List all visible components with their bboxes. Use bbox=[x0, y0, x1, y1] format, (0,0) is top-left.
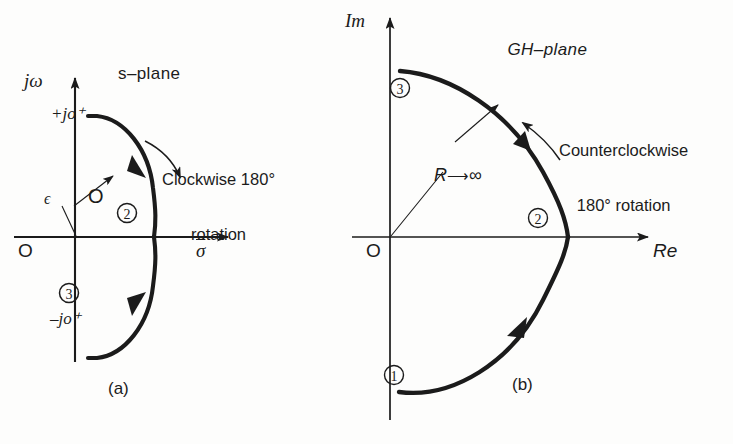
panel-b-direction-arrow-lower bbox=[507, 317, 527, 338]
panel-b-plane-label: GH–plane bbox=[487, 21, 587, 78]
panel-a-epsilon-target-label: O bbox=[88, 185, 104, 207]
panel-b-origin-label: O bbox=[366, 240, 381, 261]
panel-b-marker-1: 1 bbox=[385, 366, 404, 385]
panel-b-radius-value: ∞ bbox=[469, 165, 482, 185]
panel-a-direction-arrow-lower bbox=[127, 292, 146, 316]
panel-a-marker-2: 2 bbox=[118, 204, 137, 223]
svg-text:2: 2 bbox=[124, 207, 131, 222]
panel-b-contour bbox=[399, 71, 568, 393]
panel-a-rotation-note-line2: rotation bbox=[162, 225, 275, 243]
panel-b-rotation-note-line1: Counterclockwise bbox=[559, 141, 688, 159]
panel-a-contour-lower bbox=[88, 237, 155, 358]
panel-b-marker-2: 2 bbox=[529, 209, 548, 228]
panel-a-rotation-note: Clockwise 180° rotation bbox=[162, 133, 275, 281]
panel-a-plane-label: s–plane bbox=[118, 64, 180, 83]
panel-a-epsilon-label: ϵ bbox=[44, 190, 50, 208]
panel-a-direction-arrow-upper bbox=[127, 155, 146, 178]
panel-b-rotation-note: Counterclockwise 180° rotation bbox=[559, 104, 688, 252]
panel-b-radius-symbol: R bbox=[434, 165, 447, 185]
svg-text:3: 3 bbox=[66, 287, 73, 302]
panel-b-radius-arrow-icon: ⟶ bbox=[447, 167, 469, 184]
panel-a-origin-label: O bbox=[18, 240, 33, 261]
panel-a-caption: (a) bbox=[108, 379, 129, 398]
panel-b-contour-lower bbox=[399, 237, 568, 393]
panel-a-upper-endpoint-label: +jo⁺ bbox=[51, 104, 85, 123]
panel-a-imaginary-axis-label: jω bbox=[24, 70, 43, 91]
svg-text:3: 3 bbox=[397, 82, 404, 97]
figure-canvas: 2 3 1 bbox=[0, 0, 733, 444]
panel-b-radius-leader-to-arc bbox=[455, 105, 498, 142]
panel-b-caption: (b) bbox=[512, 375, 533, 394]
panel-a-contour-upper bbox=[88, 116, 155, 237]
panel-a-lower-endpoint-label: –jo⁺ bbox=[50, 309, 81, 328]
panel-b-marker-3: 3 bbox=[391, 79, 410, 98]
panel-b-counterclockwise-arrow bbox=[523, 123, 560, 160]
panel-b-rotation-note-line2: 180° rotation bbox=[559, 196, 688, 214]
panel-b-rotation-arrow bbox=[523, 123, 560, 160]
panel-b-plane-label-text: GH–plane bbox=[508, 40, 588, 59]
panel-b-imaginary-axis-label: Im bbox=[345, 10, 365, 31]
svg-text:1: 1 bbox=[391, 369, 398, 384]
panel-b-radius-annotation: R⟶∞ bbox=[414, 145, 482, 205]
panel-a-rotation-note-line1: Clockwise 180° bbox=[162, 170, 275, 188]
svg-text:2: 2 bbox=[535, 212, 542, 227]
panel-a-epsilon-leader-to-origin bbox=[62, 206, 76, 236]
